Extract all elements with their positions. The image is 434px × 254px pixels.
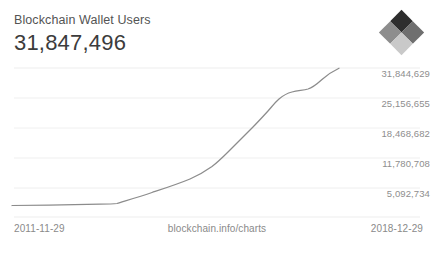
chart-footer: 2011-11-29 blockchain.info/charts 2018-1… bbox=[0, 222, 434, 238]
current-value: 31,847,496 bbox=[14, 29, 314, 57]
chart-gridlines bbox=[14, 68, 420, 217]
x-axis-start-date: 2011-11-29 bbox=[14, 222, 65, 236]
page-title: Blockchain Wallet Users bbox=[14, 12, 314, 28]
chart-header: Blockchain Wallet Users 31,847,496 bbox=[14, 12, 314, 57]
blockchain-wallet-users-chart-widget: Blockchain Wallet Users 31,847,496 bbox=[0, 0, 434, 254]
chart-source-link[interactable]: blockchain.info/charts bbox=[168, 222, 266, 236]
x-axis-end-date: 2018-12-29 bbox=[371, 222, 423, 236]
blockchain-diamond-logo-icon bbox=[378, 9, 425, 56]
chart-line-series bbox=[12, 68, 339, 205]
chart-plot-area bbox=[0, 60, 434, 220]
